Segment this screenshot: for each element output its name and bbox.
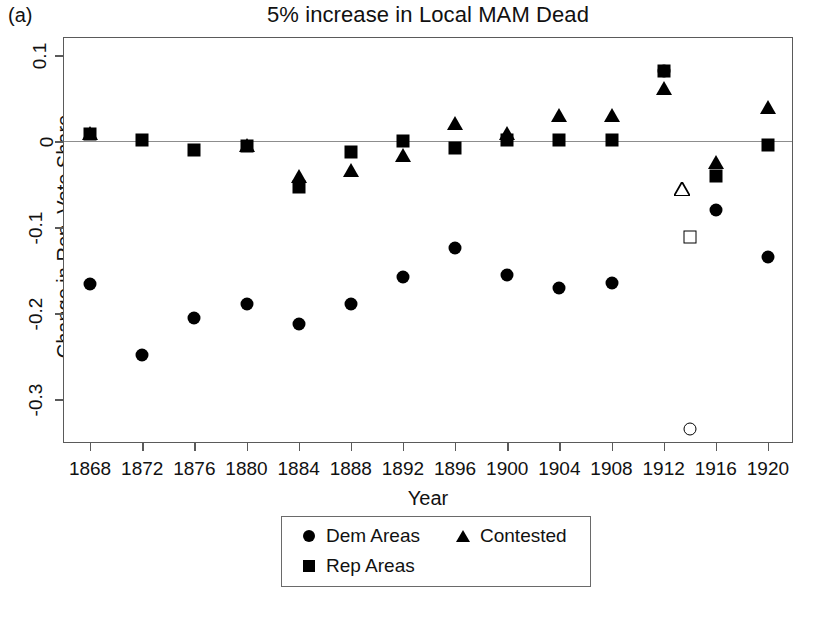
x-tick [351, 442, 352, 451]
data-point-triangle-1916 [708, 155, 724, 169]
data-point-circle-1892 [396, 271, 409, 284]
x-tick [507, 442, 508, 451]
x-tick-label: 1872 [121, 458, 163, 480]
x-tick [768, 442, 769, 451]
data-point-circle-1876 [188, 311, 201, 324]
x-tick-label: 1900 [486, 458, 528, 480]
circle-icon [298, 530, 320, 542]
data-point-triangle-1920 [760, 100, 776, 114]
data-point-square-open-1914 [683, 230, 696, 243]
data-point-square-1908 [605, 133, 618, 146]
x-tick [612, 442, 613, 451]
data-point-circle-1916 [709, 204, 722, 217]
x-tick-label: 1920 [747, 458, 789, 480]
plot-area: 0.10-0.1-0.2-0.3 18681872187618801884188… [63, 37, 793, 443]
data-point-square-1912 [657, 64, 670, 77]
y-tick [55, 313, 64, 314]
legend-label: Rep Areas [326, 555, 415, 577]
triangle-icon [452, 530, 474, 542]
y-tick-label: -0.3 [20, 389, 53, 411]
data-point-triangle-1908 [604, 108, 620, 122]
y-tick-label: 0 [42, 131, 53, 153]
data-point-square-1876 [188, 143, 201, 156]
y-tick-label: -0.1 [20, 217, 53, 239]
zero-reference-line [64, 141, 792, 142]
data-point-circle-1908 [605, 277, 618, 290]
x-tick-label: 1892 [382, 458, 424, 480]
x-tick [142, 442, 143, 451]
data-point-circle-1880 [240, 297, 253, 310]
x-tick-label: 1896 [434, 458, 476, 480]
legend-label: Contested [480, 525, 567, 547]
legend-entry-contested[interactable]: Contested [452, 525, 567, 547]
x-tick-label: 1868 [69, 458, 111, 480]
data-point-square-1896 [449, 142, 462, 155]
data-point-triangle-1868 [82, 126, 98, 140]
data-point-square-1916 [709, 170, 722, 183]
data-point-circle-1904 [553, 282, 566, 295]
data-point-circle-1900 [501, 268, 514, 281]
data-point-square-1892 [396, 135, 409, 148]
data-point-triangle-1896 [447, 116, 463, 130]
x-tick [455, 442, 456, 451]
data-point-circle-1868 [84, 278, 97, 291]
data-point-square-1888 [344, 146, 357, 159]
x-tick [90, 442, 91, 451]
data-point-triangle-1880 [239, 138, 255, 152]
x-tick-label: 1904 [538, 458, 580, 480]
x-tick-label: 1908 [590, 458, 632, 480]
y-tick [55, 55, 64, 56]
data-point-circle-1872 [136, 349, 149, 362]
data-point-circle-1888 [344, 297, 357, 310]
x-axis-label: Year [63, 487, 793, 510]
chart-legend: Dem AreasContestedRep Areas [281, 516, 591, 587]
x-tick [299, 442, 300, 451]
y-tick [55, 227, 64, 228]
x-tick [664, 442, 665, 451]
data-point-circle-1896 [449, 241, 462, 254]
x-tick-label: 1876 [173, 458, 215, 480]
x-tick-label: 1916 [695, 458, 737, 480]
panel-label: (a) [8, 4, 32, 27]
data-point-triangle-1912 [656, 81, 672, 95]
chart-title: 5% increase in Local MAM Dead [63, 2, 793, 28]
x-tick [247, 442, 248, 451]
x-tick-label: 1884 [278, 458, 320, 480]
x-tick-label: 1880 [225, 458, 267, 480]
data-point-circle-open-1914 [683, 423, 696, 436]
data-point-triangle-1888 [343, 163, 359, 177]
square-icon [298, 560, 320, 572]
data-point-square-1872 [136, 134, 149, 147]
y-tick-label: 0.1 [27, 45, 53, 67]
data-point-circle-1884 [292, 317, 305, 330]
data-point-triangle-1884 [291, 169, 307, 183]
data-point-square-1920 [761, 138, 774, 151]
x-tick-label: 1888 [330, 458, 372, 480]
x-tick [559, 442, 560, 451]
y-tick [55, 399, 64, 400]
y-tick-label: -0.2 [20, 303, 53, 325]
x-tick [194, 442, 195, 451]
data-point-square-1904 [553, 134, 566, 147]
data-point-triangle-1900 [499, 126, 515, 140]
x-tick-label: 1912 [643, 458, 685, 480]
data-point-circle-1920 [761, 251, 774, 264]
data-point-triangle-open-1914 [682, 182, 698, 196]
legend-entry-rep-areas[interactable]: Rep Areas [298, 555, 415, 577]
data-point-triangle-1892 [395, 148, 411, 162]
x-tick [716, 442, 717, 451]
legend-entry-dem-areas[interactable]: Dem Areas [298, 525, 420, 547]
data-point-triangle-1904 [551, 108, 567, 122]
x-tick [403, 442, 404, 451]
legend-label: Dem Areas [326, 525, 420, 547]
